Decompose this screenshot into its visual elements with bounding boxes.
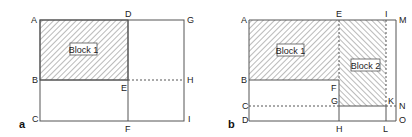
point-C: C <box>32 114 39 124</box>
point-D: D <box>242 115 249 125</box>
block-2-text: Block 2 <box>351 61 381 71</box>
panel-b: Block 1 Block 2 A E I M B F G K N C D O … <box>228 9 407 134</box>
point-F: F <box>331 83 337 93</box>
point-D: D <box>125 9 132 19</box>
point-F: F <box>125 124 131 134</box>
point-A: A <box>31 15 37 25</box>
point-L: L <box>383 124 388 134</box>
point-K: K <box>388 96 394 106</box>
panel-b-label: b <box>228 118 235 130</box>
point-E: E <box>121 83 127 93</box>
point-C: C <box>242 101 249 111</box>
block-1-label: Block 1 <box>69 43 99 55</box>
point-I: I <box>188 114 191 124</box>
block-2-label: Block 2 <box>351 59 381 71</box>
point-O: O <box>399 115 406 125</box>
point-I: I <box>385 9 388 19</box>
panel-a: Block 1 A D G B E H C F I a <box>19 9 194 134</box>
point-H: H <box>187 75 194 85</box>
point-B: B <box>241 75 247 85</box>
diagram: Block 1 A D G B E H C F I a Block 1 <box>0 0 412 137</box>
point-G: G <box>187 15 194 25</box>
point-E: E <box>336 9 342 19</box>
block-1-text: Block 1 <box>276 46 306 56</box>
block-1-label: Block 1 <box>276 44 306 56</box>
point-B: B <box>32 75 38 85</box>
point-G: G <box>331 96 338 106</box>
point-M: M <box>399 15 407 25</box>
point-H: H <box>336 124 343 134</box>
point-N: N <box>399 101 406 111</box>
block-1-text: Block 1 <box>69 45 99 55</box>
point-A: A <box>241 15 247 25</box>
panel-a-label: a <box>19 118 26 130</box>
